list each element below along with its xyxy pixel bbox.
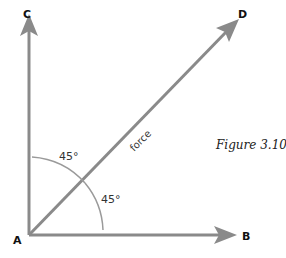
angle-label-upper: 45° [59,150,79,163]
vector-ac [20,14,38,235]
point-label-d: D [238,8,247,21]
vector-ab [29,226,237,244]
point-label-b: B [242,230,250,243]
force-diagram: C D A B 45° 45° force Figure 3.10 [0,0,286,258]
point-label-c: C [23,8,31,21]
vector-ad-force [29,19,239,235]
diagram-canvas: C D A B 45° 45° force Figure 3.10 [0,0,286,258]
angle-label-lower: 45° [101,193,121,206]
force-label: force [128,128,154,154]
point-label-a: A [13,234,22,247]
angle-arc-lower [85,183,103,230]
figure-caption: Figure 3.10 [215,138,286,152]
